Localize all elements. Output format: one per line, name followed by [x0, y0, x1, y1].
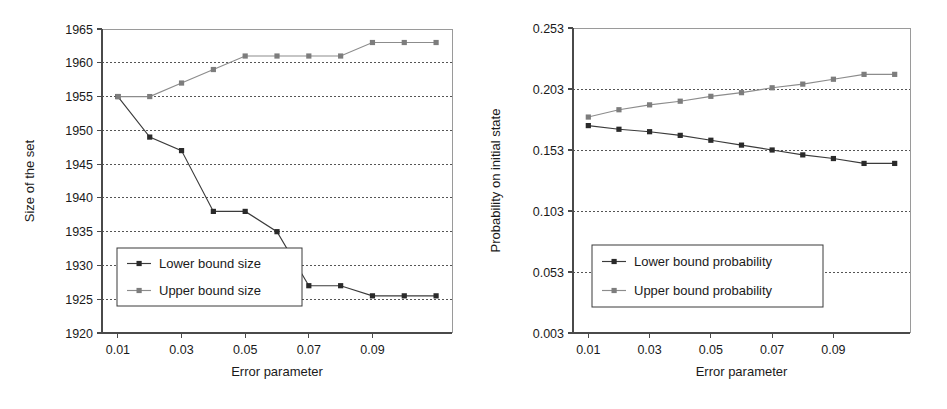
data-point-marker	[831, 156, 836, 161]
x-axis-tick-label: 0.09	[360, 343, 384, 357]
x-axis-tick-label: 0.09	[821, 343, 845, 357]
data-point-marker	[586, 114, 591, 119]
y-axis-tick-label: 1960	[65, 56, 93, 70]
data-point-marker	[211, 67, 216, 72]
data-point-marker	[211, 209, 216, 214]
x-axis-tick-label: 0.05	[233, 343, 257, 357]
y-axis-tick-label: 1965	[65, 23, 93, 37]
y-axis-tick-label: 1930	[65, 259, 93, 273]
data-point-marker	[739, 90, 744, 95]
y-axis-tick-label: 1945	[65, 158, 93, 172]
legend-item-label: Lower bound probability	[634, 254, 773, 269]
data-point-marker	[678, 99, 683, 104]
data-point-marker	[800, 82, 805, 87]
legend: Lower bound sizeUpper bound size	[117, 248, 302, 306]
data-point-marker	[861, 72, 866, 77]
series-line-upper	[118, 43, 436, 97]
data-point-marker	[770, 147, 775, 152]
data-point-marker	[892, 72, 897, 77]
data-point-marker	[274, 53, 279, 58]
y-axis-tick-label: 1935	[65, 225, 93, 239]
x-axis-tick-label: 0.01	[106, 343, 130, 357]
y-axis-tick-label: 1955	[65, 90, 93, 104]
y-axis-tick-label: 0.153	[533, 144, 564, 158]
initial-state-probability-line-chart: 0.0030.0530.1030.1530.2030.2530.010.030.…	[470, 0, 947, 409]
x-axis-tick-label: 0.05	[699, 343, 723, 357]
data-point-marker	[243, 209, 248, 214]
x-axis-tick-label: 0.07	[297, 343, 321, 357]
y-axis-tick-label: 1950	[65, 124, 93, 138]
chart-panel-initial-state-probability: 0.0030.0530.1030.1530.2030.2530.010.030.…	[470, 0, 947, 409]
data-point-marker	[179, 80, 184, 85]
data-point-marker	[370, 293, 375, 298]
data-point-marker	[433, 40, 438, 45]
data-point-marker	[739, 143, 744, 148]
x-axis-tick-label: 0.03	[169, 343, 193, 357]
data-point-marker	[115, 94, 120, 99]
data-point-marker	[770, 85, 775, 90]
data-point-marker	[243, 53, 248, 58]
data-point-marker	[274, 229, 279, 234]
set-size-line-chart: 1920192519301935194019451950195519601965…	[0, 0, 470, 409]
data-point-marker	[831, 77, 836, 82]
data-point-marker	[586, 123, 591, 128]
data-point-marker	[616, 107, 621, 112]
data-point-marker	[338, 283, 343, 288]
y-axis-title: Probability on initial state	[488, 109, 503, 253]
chart-panel-set-size: 1920192519301935194019451950195519601965…	[0, 0, 470, 409]
y-axis-tick-label: 0.053	[533, 266, 564, 280]
y-axis-title: Size of the set	[22, 139, 37, 222]
data-point-marker	[708, 94, 713, 99]
data-point-marker	[147, 94, 152, 99]
legend-item-label: Lower bound size	[159, 256, 261, 271]
data-point-marker	[647, 102, 652, 107]
figure-two-panel-charts: 1920192519301935194019451950195519601965…	[0, 0, 947, 409]
x-axis-title: Error parameter	[696, 364, 788, 379]
series-line-upper	[588, 74, 894, 117]
y-axis-tick-label: 1925	[65, 293, 93, 307]
data-point-marker	[892, 161, 897, 166]
data-point-marker	[306, 283, 311, 288]
data-point-marker	[861, 161, 866, 166]
data-point-marker	[306, 53, 311, 58]
x-axis-tick-label: 0.07	[760, 343, 784, 357]
x-axis-tick-label: 0.01	[576, 343, 600, 357]
x-axis-tick-label: 0.03	[637, 343, 661, 357]
data-point-marker	[402, 40, 407, 45]
data-point-marker	[433, 293, 438, 298]
y-axis-tick-label: 0.203	[533, 83, 564, 97]
y-axis-tick-label: 1920	[65, 327, 93, 341]
data-point-marker	[800, 152, 805, 157]
x-axis-title: Error parameter	[231, 364, 323, 379]
legend-item-label: Upper bound probability	[634, 283, 773, 298]
y-axis-tick-label: 0.253	[533, 22, 564, 36]
data-point-marker	[647, 129, 652, 134]
data-point-marker	[708, 138, 713, 143]
data-point-marker	[147, 134, 152, 139]
legend-item-label: Upper bound size	[159, 283, 261, 298]
data-point-marker	[678, 133, 683, 138]
data-point-marker	[370, 40, 375, 45]
y-axis-tick-label: 0.103	[533, 205, 564, 219]
y-axis-tick-label: 1940	[65, 191, 93, 205]
data-point-marker	[338, 53, 343, 58]
data-point-marker	[402, 293, 407, 298]
data-point-marker	[616, 127, 621, 132]
data-point-marker	[179, 148, 184, 153]
legend: Lower bound probabilityUpper bound proba…	[592, 245, 823, 307]
y-axis-tick-label: 0.003	[533, 327, 564, 341]
